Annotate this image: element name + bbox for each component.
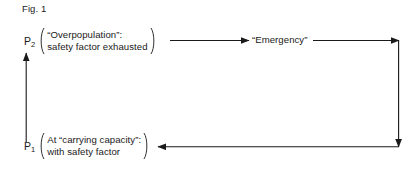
node-p1-symbol: P1 [24,140,35,152]
node-p2-line1: “Overpopulation”: [47,29,147,41]
node-p2-line2: safety factor exhausted [47,41,147,53]
node-p2: P2 “Overpopulation”: safety factor exhau… [24,27,157,55]
node-p1: P1 At “carrying capacity”: with safety f… [24,132,150,160]
node-emergency-label: “Emergency” [252,34,307,45]
node-p2-symbol: P2 [24,35,35,47]
node-p1-bracket-group: At “carrying capacity”: with safety fact… [38,132,150,160]
node-p2-symbol-letter: P [24,35,31,47]
right-paren-icon [143,132,150,160]
node-p1-text: At “carrying capacity”: with safety fact… [45,132,143,160]
node-p1-subscript: 1 [31,145,35,154]
node-p1-line2: with safety factor [47,146,141,158]
figure-diagram: Fig. 1 P2 “Overpopulation”: safety facto… [0,0,420,172]
node-p1-symbol-letter: P [24,140,31,152]
node-p2-subscript: 2 [31,40,35,49]
node-p1-line1: At “carrying capacity”: [47,134,141,146]
left-paren-icon [38,132,45,160]
right-paren-icon [150,27,157,55]
left-paren-icon [38,27,45,55]
node-p2-text: “Overpopulation”: safety factor exhauste… [45,27,149,55]
node-p2-bracket-group: “Overpopulation”: safety factor exhauste… [38,27,156,55]
